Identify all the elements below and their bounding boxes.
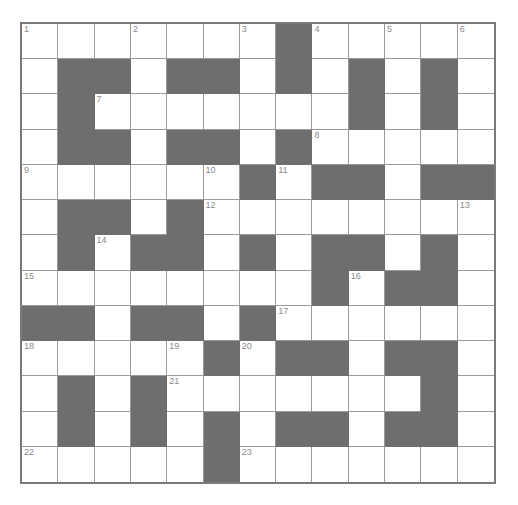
letter-cell[interactable] (95, 412, 131, 447)
letter-cell[interactable]: 4 (312, 24, 348, 59)
letter-cell[interactable] (58, 447, 94, 482)
letter-cell[interactable] (95, 376, 131, 411)
letter-cell[interactable] (421, 24, 457, 59)
letter-cell[interactable] (167, 271, 203, 306)
letter-cell[interactable]: 10 (204, 165, 240, 200)
letter-cell[interactable] (22, 376, 58, 411)
letter-cell[interactable] (458, 412, 494, 447)
letter-cell[interactable] (204, 235, 240, 270)
letter-cell[interactable] (458, 130, 494, 165)
letter-cell[interactable]: 15 (22, 271, 58, 306)
letter-cell[interactable]: 2 (131, 24, 167, 59)
letter-cell[interactable]: 6 (458, 24, 494, 59)
letter-cell[interactable]: 1 (22, 24, 58, 59)
letter-cell[interactable] (385, 94, 421, 129)
letter-cell[interactable] (167, 94, 203, 129)
letter-cell[interactable] (240, 271, 276, 306)
letter-cell[interactable] (458, 94, 494, 129)
letter-cell[interactable] (95, 165, 131, 200)
letter-cell[interactable] (58, 271, 94, 306)
letter-cell[interactable]: 18 (22, 341, 58, 376)
letter-cell[interactable]: 13 (458, 200, 494, 235)
letter-cell[interactable] (22, 235, 58, 270)
letter-cell[interactable] (22, 130, 58, 165)
letter-cell[interactable]: 20 (240, 341, 276, 376)
letter-cell[interactable]: 19 (167, 341, 203, 376)
letter-cell[interactable] (204, 306, 240, 341)
letter-cell[interactable] (240, 412, 276, 447)
letter-cell[interactable] (385, 200, 421, 235)
letter-cell[interactable]: 22 (22, 447, 58, 482)
letter-cell[interactable] (22, 200, 58, 235)
letter-cell[interactable] (276, 271, 312, 306)
letter-cell[interactable]: 11 (276, 165, 312, 200)
letter-cell[interactable] (276, 200, 312, 235)
letter-cell[interactable] (349, 200, 385, 235)
letter-cell[interactable] (95, 341, 131, 376)
letter-cell[interactable] (167, 412, 203, 447)
letter-cell[interactable] (349, 412, 385, 447)
letter-cell[interactable] (240, 200, 276, 235)
letter-cell[interactable]: 9 (22, 165, 58, 200)
letter-cell[interactable] (95, 447, 131, 482)
letter-cell[interactable] (458, 341, 494, 376)
letter-cell[interactable] (58, 341, 94, 376)
letter-cell[interactable] (276, 94, 312, 129)
letter-cell[interactable] (95, 306, 131, 341)
letter-cell[interactable] (131, 59, 167, 94)
letter-cell[interactable] (458, 59, 494, 94)
letter-cell[interactable] (349, 376, 385, 411)
letter-cell[interactable] (131, 94, 167, 129)
letter-cell[interactable] (385, 376, 421, 411)
letter-cell[interactable] (349, 130, 385, 165)
letter-cell[interactable] (276, 447, 312, 482)
letter-cell[interactable] (458, 447, 494, 482)
letter-cell[interactable] (458, 376, 494, 411)
letter-cell[interactable] (421, 447, 457, 482)
letter-cell[interactable] (204, 24, 240, 59)
letter-cell[interactable] (349, 24, 385, 59)
letter-cell[interactable] (22, 94, 58, 129)
letter-cell[interactable] (131, 341, 167, 376)
letter-cell[interactable] (131, 200, 167, 235)
letter-cell[interactable] (421, 200, 457, 235)
letter-cell[interactable] (131, 271, 167, 306)
letter-cell[interactable] (58, 165, 94, 200)
letter-cell[interactable] (385, 130, 421, 165)
letter-cell[interactable] (312, 306, 348, 341)
letter-cell[interactable] (349, 447, 385, 482)
letter-cell[interactable]: 8 (312, 130, 348, 165)
letter-cell[interactable] (312, 200, 348, 235)
letter-cell[interactable] (240, 130, 276, 165)
letter-cell[interactable] (312, 447, 348, 482)
letter-cell[interactable] (240, 59, 276, 94)
letter-cell[interactable]: 17 (276, 306, 312, 341)
letter-cell[interactable] (22, 59, 58, 94)
letter-cell[interactable] (385, 447, 421, 482)
letter-cell[interactable] (276, 376, 312, 411)
letter-cell[interactable] (421, 306, 457, 341)
letter-cell[interactable]: 3 (240, 24, 276, 59)
letter-cell[interactable] (167, 24, 203, 59)
letter-cell[interactable]: 23 (240, 447, 276, 482)
letter-cell[interactable] (385, 306, 421, 341)
letter-cell[interactable] (458, 306, 494, 341)
letter-cell[interactable] (240, 376, 276, 411)
letter-cell[interactable] (22, 412, 58, 447)
letter-cell[interactable] (421, 130, 457, 165)
letter-cell[interactable] (349, 306, 385, 341)
letter-cell[interactable] (349, 341, 385, 376)
letter-cell[interactable] (58, 24, 94, 59)
letter-cell[interactable] (95, 24, 131, 59)
letter-cell[interactable]: 12 (204, 200, 240, 235)
letter-cell[interactable]: 5 (385, 24, 421, 59)
letter-cell[interactable]: 16 (349, 271, 385, 306)
letter-cell[interactable] (95, 271, 131, 306)
letter-cell[interactable] (167, 447, 203, 482)
letter-cell[interactable] (312, 376, 348, 411)
letter-cell[interactable] (167, 165, 203, 200)
letter-cell[interactable]: 21 (167, 376, 203, 411)
letter-cell[interactable] (131, 447, 167, 482)
letter-cell[interactable] (385, 165, 421, 200)
letter-cell[interactable] (240, 94, 276, 129)
